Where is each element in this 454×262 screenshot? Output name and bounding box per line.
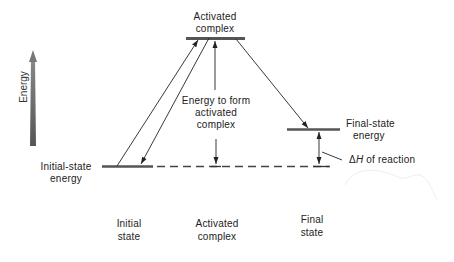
energy-axis-label: Energy	[18, 67, 30, 107]
scan-smudge	[345, 170, 438, 200]
state-label-initial-line1: Initial	[104, 218, 154, 230]
state-label-activated: Activated complex	[187, 218, 247, 243]
initial-energy-line2: energy	[26, 173, 106, 185]
energy-to-form-label: Energy to form activated complex	[172, 95, 260, 131]
state-label-activated-line1: Activated	[187, 218, 247, 230]
final-state-energy-line2: energy	[346, 130, 426, 142]
delta-h-text: of reaction	[363, 154, 415, 165]
activated-complex-label: Activated complex	[185, 11, 245, 35]
state-label-activated-line2: complex	[187, 231, 247, 243]
energy-to-form-line2: activated	[172, 107, 260, 119]
state-label-initial: Initial state	[104, 218, 154, 243]
energy-to-form-line3: complex	[172, 119, 260, 131]
activated-complex-label-line1: Activated	[185, 11, 245, 23]
state-label-final-line1: Final	[292, 214, 332, 226]
energy-axis-head	[29, 50, 37, 62]
energy-axis-arrow	[29, 50, 37, 146]
state-label-initial-line2: state	[104, 231, 154, 243]
state-label-final: Final state	[292, 214, 332, 239]
delta-h-pointer	[322, 152, 342, 160]
final-state-energy-line1: Final-state	[346, 118, 426, 130]
state-label-final-line2: state	[292, 227, 332, 239]
energy-axis-shaft	[30, 58, 36, 146]
initial-state-energy-label: Initial-state energy	[26, 161, 106, 185]
final-state-energy-label: Final-state energy	[346, 118, 426, 142]
delta-symbol: Δ	[349, 154, 356, 165]
delta-h-label: ΔH of reaction	[349, 154, 454, 166]
initial-energy-line1: Initial-state	[26, 161, 106, 173]
energy-to-form-line1: Energy to form	[172, 95, 260, 107]
activated-complex-label-line2: complex	[185, 23, 245, 35]
